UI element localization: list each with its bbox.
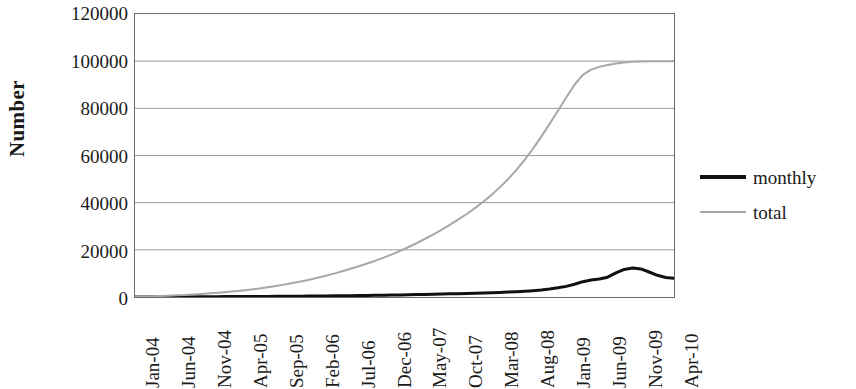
plot-canvas <box>135 14 674 297</box>
x-axis-tick-label: Mar-08 <box>501 304 523 388</box>
y-axis-tick-label: 60000 <box>28 147 128 166</box>
x-axis-tick-label: Nov-04 <box>214 304 236 388</box>
legend-entry-monthly: monthly <box>700 162 816 192</box>
y-axis-tick-label: 0 <box>28 289 128 308</box>
y-axis-tick-label: 120000 <box>28 4 128 23</box>
y-axis-tick-label: 40000 <box>28 194 128 213</box>
legend-entry-total: total <box>700 197 787 227</box>
x-axis-tick-label: Sep-05 <box>286 304 308 388</box>
chart-legend: monthlytotal <box>700 162 856 238</box>
x-axis-tick-label: Feb-06 <box>322 304 344 388</box>
series-lines <box>135 61 674 297</box>
y-axis-tick-label: 20000 <box>28 242 128 261</box>
x-axis-tick-label: Jul-06 <box>358 304 380 388</box>
y-axis-tick-label: 100000 <box>28 52 128 71</box>
line-chart: Number 020000400006000080000100000120000… <box>0 0 856 389</box>
y-axis-tick-label: 80000 <box>28 99 128 118</box>
gridlines <box>135 61 674 250</box>
legend-label-total: total <box>753 203 787 222</box>
x-axis-tick-label: Aug-08 <box>537 304 559 388</box>
x-axis-tick-label: Jun-09 <box>609 304 631 388</box>
legend-swatch-monthly <box>700 175 746 179</box>
plot-area <box>134 13 675 298</box>
x-axis-tick-label: Jun-04 <box>178 304 200 388</box>
x-axis-tick-label: Dec-06 <box>394 304 416 388</box>
x-axis-tick-label: Nov-09 <box>645 304 667 388</box>
x-axis-tick-label: May-07 <box>429 304 451 388</box>
x-axis-tick-label: Apr-10 <box>681 304 703 388</box>
x-axis-tick-labels: Jan-04Jun-04Nov-04Apr-05Sep-05Feb-06Jul-… <box>134 302 675 389</box>
x-axis-tick-label: Jan-04 <box>142 304 164 388</box>
x-axis-tick-label: Oct-07 <box>465 304 487 388</box>
y-axis-title: Number <box>5 64 30 174</box>
x-axis-tick-label: Jan-09 <box>573 304 595 388</box>
legend-swatch-total <box>700 211 746 213</box>
series-line-total <box>135 61 674 297</box>
legend-label-monthly: monthly <box>753 168 816 187</box>
y-axis-tick-labels: 020000400006000080000100000120000 <box>28 0 128 320</box>
x-axis-tick-label: Apr-05 <box>250 304 272 388</box>
